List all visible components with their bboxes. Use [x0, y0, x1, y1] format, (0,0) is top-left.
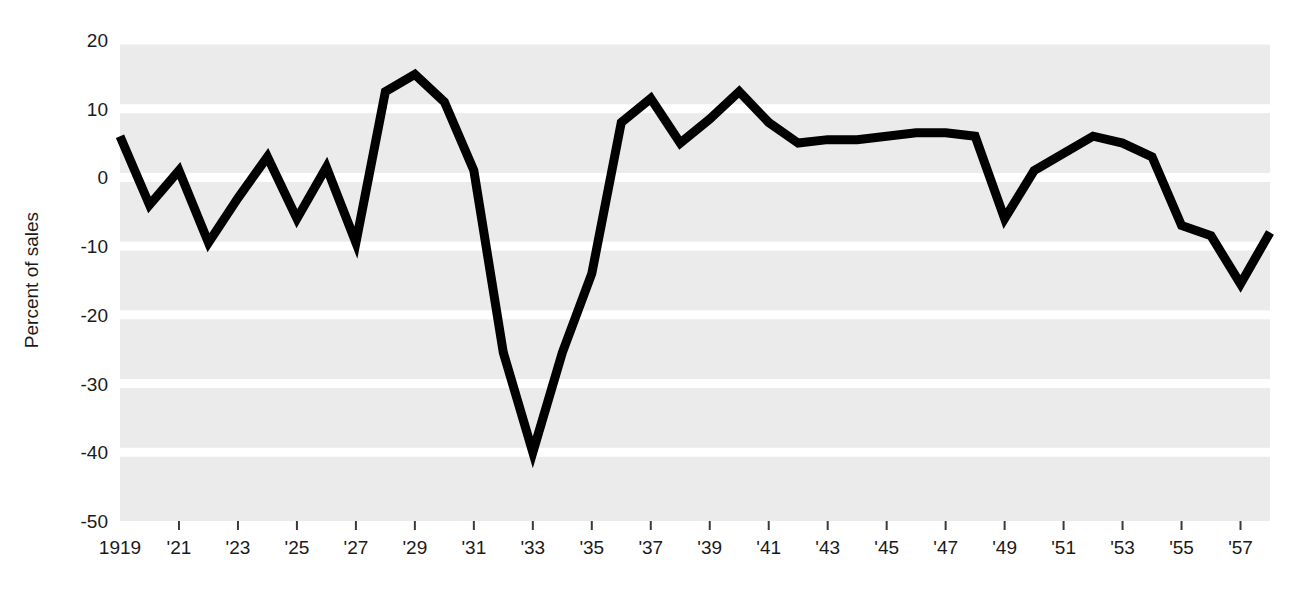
gridline	[120, 379, 1270, 388]
y-axis-title: Percent of sales	[21, 212, 42, 348]
y-tick-label: 10	[87, 99, 108, 120]
y-tick-label: -10	[81, 236, 108, 257]
x-tick-label: '25	[285, 537, 310, 558]
y-tick-label: -20	[81, 305, 108, 326]
gridline	[120, 173, 1270, 182]
x-tick-label: '47	[933, 537, 958, 558]
gridline	[120, 36, 1270, 45]
x-tick-label: '21	[167, 537, 192, 558]
x-tick-label: '35	[579, 537, 604, 558]
x-tick-label: '31	[461, 537, 486, 558]
x-tick-label: '27	[344, 537, 369, 558]
y-tick-label: -30	[81, 374, 108, 395]
x-tick-label: '49	[992, 537, 1017, 558]
x-tick-label: '53	[1110, 537, 1135, 558]
gridline	[120, 104, 1270, 113]
y-tick-label: 0	[97, 167, 108, 188]
x-tick-label: '29	[402, 537, 427, 558]
x-tick-label: '43	[815, 537, 840, 558]
line-chart: 1919'21'23'25'27'29'31'33'35'37'39'41'43…	[0, 0, 1291, 601]
gridline	[120, 448, 1270, 457]
x-tick-label: '45	[874, 537, 899, 558]
x-tick-label: '33	[520, 537, 545, 558]
x-tick-label: '57	[1228, 537, 1253, 558]
x-tick-label: '51	[1051, 537, 1076, 558]
x-tick-label: '55	[1169, 537, 1194, 558]
x-tick-label: '23	[226, 537, 251, 558]
chart-figure: 1919'21'23'25'27'29'31'33'35'37'39'41'43…	[0, 0, 1291, 601]
gridline	[120, 310, 1270, 319]
x-tick-label: '39	[697, 537, 722, 558]
y-tick-label: -40	[81, 442, 108, 463]
y-tick-label: 20	[87, 30, 108, 51]
x-tick-label: '37	[638, 537, 663, 558]
gridline	[120, 242, 1270, 251]
x-tick-label: 1919	[99, 537, 141, 558]
x-tick-label: '41	[756, 537, 781, 558]
y-tick-label: -50	[81, 511, 108, 532]
